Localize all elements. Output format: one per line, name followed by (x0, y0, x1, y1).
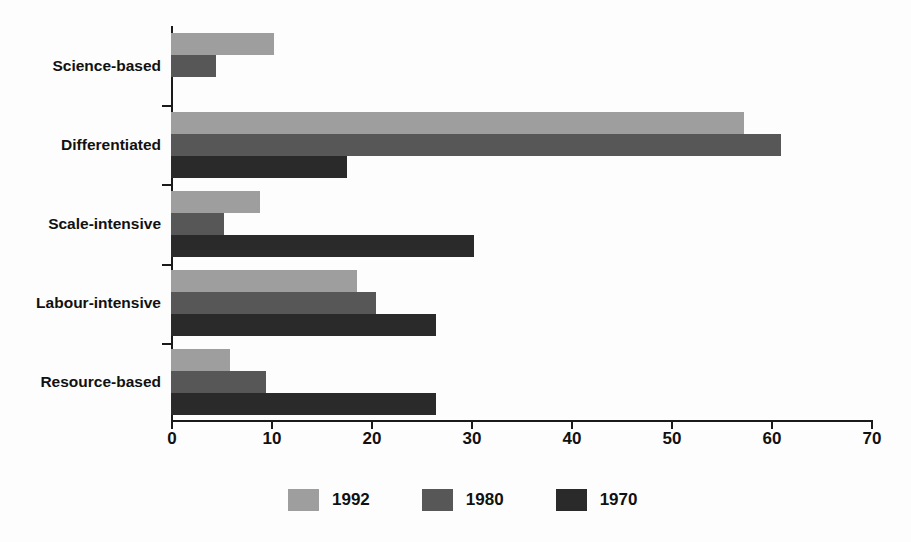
x-axis-tick-label: 0 (167, 429, 176, 449)
y-axis-tick (162, 184, 171, 186)
legend-swatch-1980 (422, 489, 453, 511)
x-axis-tick-label: 70 (863, 429, 882, 449)
bar-science-based-1980 (171, 55, 216, 77)
legend-label-1980: 1980 (466, 490, 504, 510)
x-axis-tick (671, 420, 673, 429)
x-axis-tick (871, 420, 873, 429)
x-axis-tick-label: 50 (663, 429, 682, 449)
y-axis-tick (162, 343, 171, 345)
category-label-differentiated: Differentiated (0, 136, 161, 154)
legend-label-1970: 1970 (600, 490, 638, 510)
x-axis-tick-label: 10 (263, 429, 282, 449)
bar-differentiated-1970 (171, 156, 347, 178)
x-axis-tick-label: 20 (363, 429, 382, 449)
bar-resource-based-1980 (171, 371, 266, 393)
legend-item-1980: 1980 (422, 489, 504, 511)
bar-scale-intensive-1980 (171, 213, 224, 235)
legend-item-1992: 1992 (288, 489, 370, 511)
y-axis-tick (162, 105, 171, 107)
bar-labour-intensive-1992 (171, 270, 357, 292)
bar-differentiated-1980 (171, 134, 781, 156)
x-axis-tick-label: 30 (463, 429, 482, 449)
bar-resource-based-1970 (171, 393, 436, 415)
x-axis-tick (771, 420, 773, 429)
legend-swatch-1970 (556, 489, 587, 511)
x-axis-tick (271, 420, 273, 429)
legend-label-1992: 1992 (332, 490, 370, 510)
x-axis-tick (371, 420, 373, 429)
bar-labour-intensive-1980 (171, 292, 376, 314)
x-axis-tick-label: 60 (763, 429, 782, 449)
bar-scale-intensive-1992 (171, 191, 260, 213)
bar-differentiated-1992 (171, 112, 744, 134)
bar-science-based-1992 (171, 33, 274, 55)
chart-legend: 199219801970 (288, 489, 689, 511)
category-label-labour-intensive: Labour-intensive (0, 294, 161, 312)
bar-resource-based-1992 (171, 349, 230, 371)
bar-labour-intensive-1970 (171, 314, 436, 336)
y-axis-tick (162, 264, 171, 266)
legend-item-1970: 1970 (556, 489, 638, 511)
bar-scale-intensive-1970 (171, 235, 474, 257)
category-label-resource-based: Resource-based (0, 373, 161, 391)
bar-chart: Science-basedDifferentiatedScale-intensi… (0, 0, 911, 542)
plot-area (171, 26, 871, 422)
category-label-scale-intensive: Scale-intensive (0, 215, 161, 233)
x-axis-tick-label: 40 (563, 429, 582, 449)
legend-swatch-1992 (288, 489, 319, 511)
x-axis-tick (171, 420, 173, 429)
x-axis-tick (571, 420, 573, 429)
x-axis-tick (471, 420, 473, 429)
category-label-science-based: Science-based (0, 57, 161, 75)
